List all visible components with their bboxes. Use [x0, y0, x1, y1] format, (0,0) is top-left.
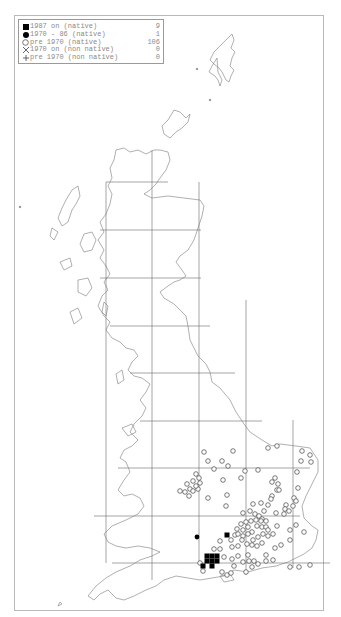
open-circle-marker [271, 532, 276, 537]
open-circle-marker [273, 476, 278, 481]
filled-square-icon [22, 23, 29, 30]
open-circle-marker [197, 476, 202, 481]
open-circle-marker [236, 554, 241, 559]
filled-square-marker [215, 559, 220, 564]
open-circle-marker [229, 571, 234, 576]
open-circle-marker [309, 460, 314, 465]
open-circle-marker [300, 449, 305, 454]
open-circle-marker [212, 467, 217, 472]
open-circle-marker [294, 523, 299, 528]
open-circle-marker [244, 570, 249, 575]
legend: 1987 on (native) 9 1970 - 86 (native) 1 … [18, 19, 164, 64]
open-circle-marker [260, 541, 265, 546]
open-circle-marker [264, 553, 269, 558]
open-circle-marker [231, 449, 236, 454]
open-circle-marker [251, 538, 256, 543]
open-circle-marker [201, 569, 206, 574]
open-circle-marker [241, 560, 246, 565]
open-circle-marker [225, 493, 230, 498]
open-circle-marker [178, 489, 183, 494]
open-circle-marker [288, 565, 293, 570]
open-circle-marker [194, 472, 199, 477]
open-circle-marker [261, 532, 266, 537]
1970-86-native-records [195, 535, 200, 540]
open-circle-marker [259, 519, 264, 524]
open-circle-marker [246, 525, 251, 530]
open-circle-marker [239, 476, 244, 481]
open-circle-marker [276, 482, 281, 487]
coastline [19, 34, 318, 606]
open-circle-marker [262, 509, 267, 514]
open-circle-marker [183, 490, 188, 495]
open-circle-marker [273, 546, 278, 551]
open-circle-icon [22, 39, 29, 46]
open-circle-marker [206, 459, 211, 464]
open-circle-marker [236, 544, 241, 549]
open-circle-marker [256, 535, 261, 540]
open-circle-marker [220, 459, 225, 464]
open-circle-marker [187, 494, 192, 499]
open-circle-marker [266, 446, 271, 451]
open-circle-marker [308, 453, 313, 458]
open-circle-marker [241, 528, 246, 533]
open-circle-marker [299, 459, 304, 464]
open-circle-marker [224, 504, 229, 509]
open-circle-marker [218, 547, 223, 552]
cross-icon [22, 47, 29, 54]
legend-row-pre-1970-non-native: pre 1970 (non native) 0 [22, 54, 160, 62]
open-circle-marker [202, 450, 207, 455]
open-circle-marker [221, 478, 226, 483]
open-circle-marker [206, 496, 211, 501]
open-circle-marker [191, 479, 196, 484]
open-circle-marker [250, 543, 255, 548]
open-circle-marker [266, 528, 271, 533]
filled-square-marker [225, 533, 230, 538]
open-circle-marker [264, 519, 269, 524]
open-circle-marker [245, 542, 250, 547]
open-circle-marker [246, 553, 251, 558]
filled-circle-icon [22, 31, 29, 38]
open-circle-marker [264, 559, 269, 564]
open-circle-marker [279, 543, 284, 548]
open-circle-marker [235, 527, 240, 532]
open-circle-marker [295, 470, 300, 475]
open-circle-marker [226, 464, 231, 469]
open-circle-marker [259, 501, 264, 506]
open-circle-marker [269, 497, 274, 502]
filled-square-marker [215, 554, 220, 559]
open-circle-marker [222, 555, 227, 560]
open-circle-marker [232, 564, 237, 569]
legend-label: pre 1970 (non native) [30, 54, 138, 62]
open-circle-marker [288, 528, 293, 533]
distribution-map [0, 0, 341, 617]
open-circle-marker [247, 559, 252, 564]
open-circle-marker [256, 468, 261, 473]
open-circle-marker [255, 544, 260, 549]
open-circle-marker [240, 538, 245, 543]
open-circle-marker [230, 557, 235, 562]
grid-lines [94, 150, 330, 580]
filled-circle-marker [195, 535, 200, 540]
open-circle-marker [241, 511, 246, 516]
open-circle-marker [296, 486, 301, 491]
filled-square-marker [201, 564, 206, 569]
open-circle-marker [230, 545, 235, 550]
open-circle-marker [266, 503, 271, 508]
filled-square-marker [205, 554, 210, 559]
plus-icon [22, 55, 29, 62]
open-circle-marker [275, 524, 280, 529]
open-circle-marker [249, 519, 254, 524]
open-circle-marker [229, 538, 234, 543]
open-circle-marker [297, 565, 302, 570]
open-circle-marker [291, 504, 296, 509]
open-circle-marker [282, 512, 287, 517]
filled-square-marker [205, 559, 210, 564]
filled-square-marker [210, 564, 215, 569]
legend-count: 0 [138, 54, 160, 62]
open-circle-marker [294, 499, 299, 504]
open-circle-marker [246, 532, 251, 537]
open-circle-marker [271, 558, 276, 563]
open-circle-marker [212, 547, 217, 552]
open-circle-marker [266, 534, 271, 539]
open-circle-marker [248, 509, 253, 514]
